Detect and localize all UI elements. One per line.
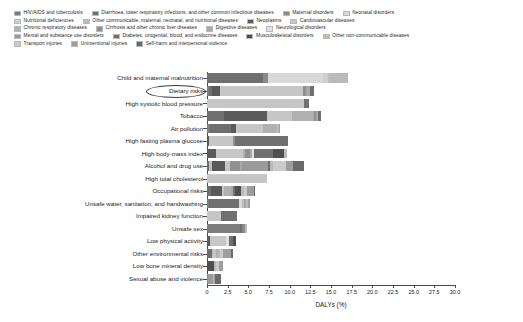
bar-segment[interactable] bbox=[207, 111, 224, 121]
bar-segment[interactable] bbox=[273, 149, 284, 159]
bar-row[interactable] bbox=[207, 149, 287, 159]
legend-item[interactable]: Other communicable, maternal, neonatal, … bbox=[83, 19, 238, 24]
bar-row[interactable] bbox=[207, 73, 348, 83]
legend-item[interactable]: Other non-communicable diseases bbox=[323, 34, 410, 39]
bar-segment[interactable] bbox=[254, 186, 256, 196]
bar-segment[interactable] bbox=[207, 73, 263, 83]
legend-item[interactable]: Chronic respiratory diseases bbox=[14, 26, 87, 31]
bar-segment[interactable] bbox=[212, 86, 219, 96]
bar-segment[interactable] bbox=[284, 149, 286, 159]
legend-swatch-icon bbox=[14, 26, 21, 31]
legend-swatch-icon bbox=[323, 34, 330, 39]
bar-segment[interactable] bbox=[263, 124, 275, 134]
bar-row[interactable] bbox=[207, 224, 247, 234]
bar-segment[interactable] bbox=[220, 86, 303, 96]
legend-item[interactable]: Neurological disorders bbox=[266, 26, 325, 31]
bar-segment[interactable] bbox=[293, 161, 304, 171]
bar-row[interactable] bbox=[207, 211, 237, 221]
y-axis-category-label: Low physical activity bbox=[13, 236, 203, 246]
legend-item[interactable]: Neonatal disorders bbox=[343, 11, 395, 16]
bar-segment[interactable] bbox=[219, 261, 224, 271]
legend-item[interactable]: Cirrhosis and other chronic liver diseas… bbox=[96, 26, 197, 31]
bar-segment[interactable] bbox=[231, 249, 233, 259]
bar-row[interactable] bbox=[207, 99, 309, 109]
bar-segment[interactable] bbox=[207, 174, 267, 184]
legend-item[interactable]: Diarrhoea, lower respiratory infections,… bbox=[92, 11, 274, 16]
bar-segment[interactable] bbox=[230, 161, 240, 171]
bar-segment[interactable] bbox=[207, 211, 221, 221]
bar-row[interactable] bbox=[207, 111, 321, 121]
bar-segment[interactable] bbox=[310, 86, 314, 96]
bar-row[interactable] bbox=[207, 199, 250, 209]
bar-segment[interactable] bbox=[279, 124, 280, 134]
x-tick bbox=[228, 285, 229, 288]
bar-segment[interactable] bbox=[223, 249, 231, 259]
x-tick bbox=[310, 285, 311, 288]
bar-segment[interactable] bbox=[331, 73, 348, 83]
bar-segment[interactable] bbox=[211, 186, 222, 196]
legend-item[interactable]: Cardiovascular diseases bbox=[290, 19, 354, 24]
legend-swatch-icon bbox=[266, 26, 273, 31]
bar-segment[interactable] bbox=[224, 111, 267, 121]
legend-item-label: Neonatal disorders bbox=[352, 11, 394, 16]
bar-row[interactable] bbox=[207, 86, 314, 96]
y-axis-category-label: Other environmental risks bbox=[13, 249, 203, 259]
y-axis-category-label: High fasting plasma glucose bbox=[13, 136, 203, 146]
bar-segment[interactable] bbox=[254, 149, 274, 159]
bar-segment[interactable] bbox=[215, 274, 221, 284]
bar-segment[interactable] bbox=[207, 261, 214, 271]
bar-segment[interactable] bbox=[267, 111, 292, 121]
bar-row[interactable] bbox=[207, 186, 255, 196]
legend-swatch-icon bbox=[290, 19, 297, 24]
bar-segment[interactable] bbox=[207, 149, 216, 159]
bar-row[interactable] bbox=[207, 274, 221, 284]
legend-swatch-icon bbox=[14, 11, 21, 16]
legend-swatch-icon bbox=[96, 26, 103, 31]
bar-row[interactable] bbox=[207, 161, 304, 171]
bar-segment[interactable] bbox=[221, 211, 237, 221]
bar-segment[interactable] bbox=[207, 99, 304, 109]
bar-row[interactable] bbox=[207, 174, 267, 184]
legend-item[interactable]: Transport injuries bbox=[14, 41, 62, 46]
legend-item[interactable]: Mental and substance use disorders bbox=[14, 34, 104, 39]
x-tick-label: 20.0 bbox=[367, 289, 378, 295]
bar-segment[interactable] bbox=[236, 124, 263, 134]
bar-segment[interactable] bbox=[245, 224, 247, 234]
bar-segment[interactable] bbox=[210, 236, 227, 246]
bar-segment[interactable] bbox=[207, 224, 240, 234]
bar-row[interactable] bbox=[207, 261, 223, 271]
legend-item[interactable]: Maternal disorders bbox=[283, 11, 334, 16]
legend-item[interactable]: HIV/AIDS and tuberculosis bbox=[14, 11, 83, 16]
bar-row[interactable] bbox=[207, 249, 233, 259]
bar-segment[interactable] bbox=[273, 161, 286, 171]
bar-segment[interactable] bbox=[209, 136, 233, 146]
bar-segment[interactable] bbox=[224, 186, 231, 196]
bar-segment[interactable] bbox=[318, 111, 320, 121]
bar-segment[interactable] bbox=[304, 99, 309, 109]
legend-item[interactable]: Musculoskeletal disorders bbox=[246, 34, 313, 39]
bar-segment[interactable] bbox=[286, 161, 293, 171]
legend-item[interactable]: Self-harm and interpersonal violence bbox=[136, 41, 227, 46]
bar-segment[interactable] bbox=[235, 136, 288, 146]
bar-row[interactable] bbox=[207, 136, 288, 146]
bar-row[interactable] bbox=[207, 236, 236, 246]
legend-item[interactable]: Diabetes, urogenital, blood, and endocri… bbox=[113, 34, 238, 39]
bar-segment[interactable] bbox=[209, 199, 239, 209]
legend-row: HIV/AIDS and tuberculosisDiarrhoea, lowe… bbox=[14, 11, 514, 16]
bar-segment[interactable] bbox=[216, 149, 243, 159]
bar-row[interactable] bbox=[207, 124, 280, 134]
legend-item[interactable]: Unintentional injuries bbox=[71, 41, 127, 46]
bar-segment[interactable] bbox=[233, 236, 236, 246]
legend-item-label: Cardiovascular diseases bbox=[300, 19, 354, 24]
legend-item[interactable]: Nutritional deficiencies bbox=[14, 19, 74, 24]
legend-item[interactable]: Digestive diseases bbox=[206, 26, 257, 31]
legend-item[interactable]: Neoplasms bbox=[247, 19, 282, 24]
bar-segment[interactable] bbox=[212, 161, 225, 171]
bar-segment[interactable] bbox=[242, 161, 268, 171]
bar-segment[interactable] bbox=[292, 111, 313, 121]
bar-segment[interactable] bbox=[210, 124, 231, 134]
legend-item-label: Neoplasms bbox=[256, 19, 281, 24]
x-tick bbox=[372, 285, 373, 288]
bar-segment[interactable] bbox=[268, 73, 323, 83]
bar-segment[interactable] bbox=[248, 199, 250, 209]
